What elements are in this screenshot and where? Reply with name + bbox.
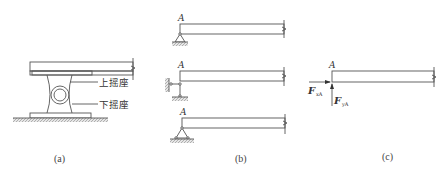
point-a-label-c: A xyxy=(328,60,336,70)
point-a-label-3: A xyxy=(179,107,187,117)
force-y-symbol: F xyxy=(333,95,342,106)
force-x-symbol: F xyxy=(307,85,316,96)
caption-b: (b) xyxy=(235,153,247,165)
break-mark-icon xyxy=(131,58,135,80)
panel-c-free-body xyxy=(309,67,436,106)
rocker-right-curve xyxy=(69,75,72,113)
label-upper-rocker: 上摇座 xyxy=(99,77,129,88)
panel-b-beam-1 xyxy=(175,20,286,42)
point-a-label-2: A xyxy=(177,60,185,70)
ground-hatch-3 xyxy=(170,139,194,143)
caption-a: (a) xyxy=(54,153,65,165)
label-lower-rocker: 下摇座 xyxy=(99,99,129,110)
ground-hatch xyxy=(13,118,108,122)
pin-inner-circle xyxy=(54,89,66,101)
force-y-subscript: yA xyxy=(341,101,349,108)
force-x-subscript: xA xyxy=(316,91,323,97)
panel-b-beam-3 xyxy=(175,114,287,139)
point-a-label-1: A xyxy=(177,13,185,23)
caption-c: (c) xyxy=(382,151,393,163)
ground-hatch-1 xyxy=(172,42,188,46)
panel-b-beam-2 xyxy=(170,67,286,97)
beam-top-plate xyxy=(30,62,133,71)
wall-hatch xyxy=(165,78,169,92)
upper-bearing-plate xyxy=(32,71,92,75)
ground-hatch-2 xyxy=(172,97,188,101)
beam-bottom-plate xyxy=(30,71,133,75)
base-plate xyxy=(30,113,91,118)
rocker-left-curve xyxy=(47,75,50,113)
